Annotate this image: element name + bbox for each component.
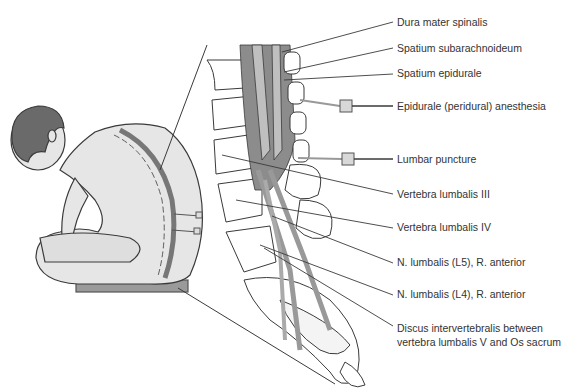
label-vertebra-l4: Vertebra lumbalis IV [397, 221, 491, 234]
label-nerve-l5: N. lumbalis (L5), R. anterior [397, 256, 525, 269]
spinal-needle [298, 153, 393, 165]
thigh [40, 233, 140, 262]
ear [48, 130, 56, 142]
label-epidural-space: Spatium epidurale [397, 67, 482, 80]
label-subarachnoid-space: Spatium subarachnoideum [397, 42, 522, 55]
label-disc-line-1: Discus intervertebralis between [397, 322, 543, 335]
label-dura-mater: Dura mater spinalis [397, 16, 487, 29]
epidural-needle [300, 100, 393, 112]
label-epidural-anesthesia: Epidurale (peridural) anesthesia [397, 100, 546, 113]
label-disc-line-2: vertebra lumbalis V and Os sacrum [397, 336, 561, 349]
label-lumbar-puncture: Lumbar puncture [397, 153, 476, 166]
label-vertebra-l3: Vertebra lumbalis III [397, 188, 490, 201]
label-nerve-l4: N. lumbalis (L4), R. anterior [397, 288, 525, 301]
